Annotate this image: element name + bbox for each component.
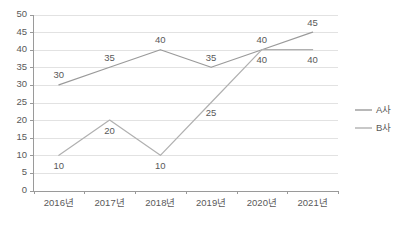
data-label: 40 bbox=[257, 34, 268, 45]
series-line-b bbox=[59, 50, 313, 156]
x-tick-label: 2018년 bbox=[145, 197, 175, 208]
x-tick-label: 2020년 bbox=[247, 197, 277, 208]
chart-legend: A사B사 bbox=[355, 104, 391, 133]
data-label: 45 bbox=[307, 17, 318, 28]
data-label: 40 bbox=[307, 54, 318, 65]
y-tick-label: 35 bbox=[16, 61, 27, 72]
y-tick-label: 45 bbox=[16, 26, 27, 37]
x-tick-label: 2016년 bbox=[44, 197, 74, 208]
y-tick-label: 0 bbox=[22, 184, 27, 195]
data-label: 25 bbox=[206, 107, 217, 118]
data-label: 40 bbox=[155, 34, 166, 45]
data-label: 10 bbox=[54, 160, 65, 171]
y-tick-label: 20 bbox=[16, 114, 27, 125]
y-axis-group bbox=[30, 15, 34, 192]
y-tick-label: 5 bbox=[22, 166, 27, 177]
legend-label: A사 bbox=[376, 104, 391, 115]
data-label: 40 bbox=[257, 54, 268, 65]
data-label: 35 bbox=[104, 52, 115, 63]
y-tick-labels: 05101520253035404550 bbox=[16, 8, 27, 195]
y-tick-label: 40 bbox=[16, 43, 27, 54]
data-point-labels: 303540354045102010254040 bbox=[54, 17, 318, 171]
y-tick-label: 10 bbox=[16, 149, 27, 160]
gridlines-group bbox=[34, 16, 339, 192]
x-tick-labels: 2016년2017년2018년2019년2020년2021년 bbox=[44, 197, 328, 208]
chart-canvas: 05101520253035404550 2016년2017년2018년2019… bbox=[0, 0, 412, 227]
x-tick-label: 2019년 bbox=[196, 197, 226, 208]
legend-label: B사 bbox=[376, 122, 391, 133]
y-tick-marks bbox=[30, 16, 34, 192]
x-axis-group bbox=[34, 191, 339, 195]
data-label: 35 bbox=[206, 52, 217, 63]
line-chart-figure: ···· ·· ·· ·· 05101520253035404550 2016년… bbox=[0, 0, 412, 227]
y-tick-label: 50 bbox=[16, 8, 27, 19]
data-label: 30 bbox=[54, 69, 65, 80]
y-tick-label: 30 bbox=[16, 78, 27, 89]
data-label: 20 bbox=[104, 125, 115, 136]
series-line-a bbox=[59, 32, 313, 85]
x-tick-label: 2017년 bbox=[95, 197, 125, 208]
x-tick-label: 2021년 bbox=[298, 197, 328, 208]
y-tick-label: 15 bbox=[16, 131, 27, 142]
y-tick-label: 25 bbox=[16, 96, 27, 107]
data-label: 10 bbox=[155, 160, 166, 171]
